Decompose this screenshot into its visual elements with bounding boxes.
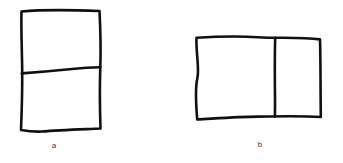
sketch-drawing	[0, 0, 343, 163]
panel-b-caption: b	[252, 141, 268, 149]
panel-a-caption: a	[46, 142, 62, 150]
panel-a-drawing	[21, 10, 101, 132]
figure-canvas: a b	[0, 0, 343, 163]
panel-b-drawing	[196, 37, 321, 120]
panel-b-rectangle-outline	[196, 37, 321, 120]
panel-a-horizontal-divider	[22, 67, 101, 73]
